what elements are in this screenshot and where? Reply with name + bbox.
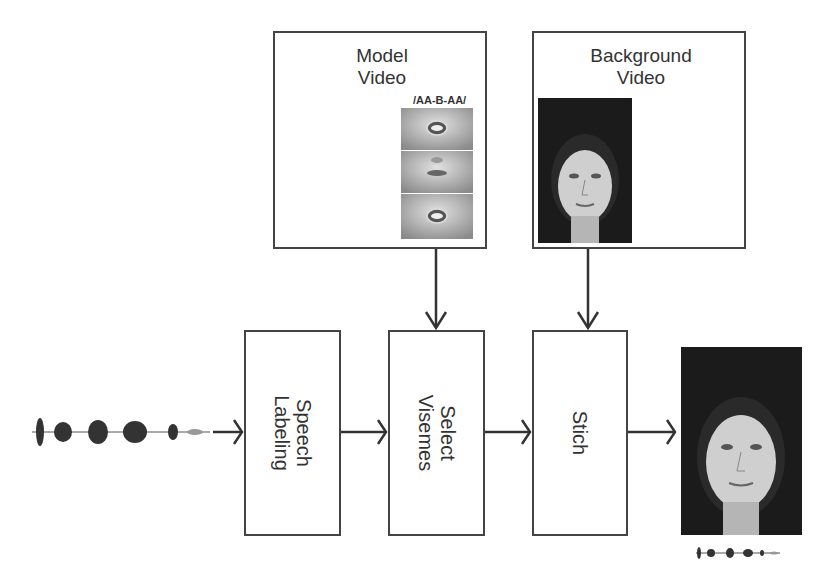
connectors bbox=[0, 0, 833, 581]
input-waveform-icon bbox=[32, 418, 210, 446]
output-waveform-icon bbox=[696, 547, 780, 559]
